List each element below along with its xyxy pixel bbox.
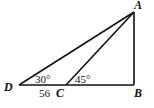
angle-acb: 45° <box>75 73 90 85</box>
geometry-diagram: A B C D 30° 45° 56 <box>0 0 154 108</box>
length-dc: 56 <box>39 87 51 99</box>
label-c: C <box>56 86 65 100</box>
label-a: A <box>133 0 142 12</box>
label-b: B <box>133 86 142 100</box>
angle-d: 30° <box>35 73 50 85</box>
label-d: D <box>3 80 13 94</box>
